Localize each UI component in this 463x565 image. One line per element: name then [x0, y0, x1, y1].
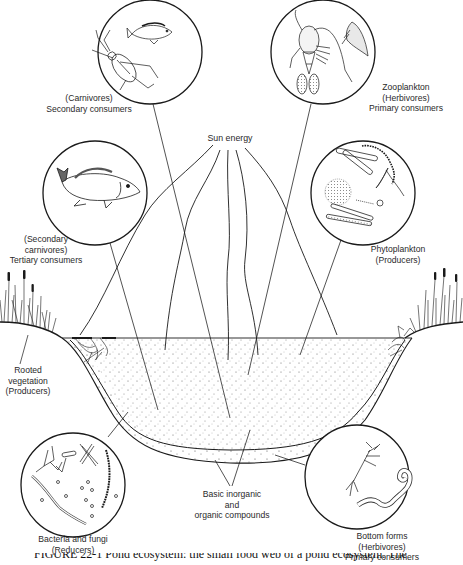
bottom-forms-label-line-1: Bottom forms — [332, 531, 432, 542]
phytoplankton-label-line-1: Phytoplankton — [358, 244, 438, 255]
left-reeds — [0, 278, 56, 333]
rooted-vegetation-label-line-1: Rooted — [0, 365, 56, 376]
pond-ecosystem-diagram: (Carnivores) Secondary consumers Zooplan… — [0, 0, 463, 565]
sun-energy-label-line-1: Sun energy — [190, 133, 270, 144]
secondary-carnivores-label-line-3: Tertiary consumers — [0, 255, 92, 266]
zooplankton-pointer — [248, 104, 311, 375]
sun-energy-label: Sun energy — [190, 133, 270, 144]
basic-compounds-label-line-3: organic compounds — [182, 510, 282, 521]
basic-compounds-label-line-2: and — [182, 500, 282, 511]
figure-caption-cropped: FIGURE 22-1 Pond ecosystem: the small fo… — [0, 553, 463, 565]
secondary-carnivores-label: (Secondary carnivores) Tertiary consumer… — [0, 234, 92, 266]
rooted-vegetation-label-line-3: (Producers) — [0, 386, 56, 397]
phytoplankton-circle — [311, 141, 415, 245]
right-reeds — [410, 276, 462, 332]
zooplankton-label-line-3: Primary consumers — [358, 103, 454, 114]
bacteria-fungi-label: Bacteria and fungi (Reducers) — [23, 534, 123, 555]
carnivores-label-line-2: Secondary consumers — [24, 104, 154, 115]
zooplankton-label-line-2: (Herbivores) — [358, 93, 454, 104]
right-bank-ground — [405, 322, 463, 338]
zooplankton-label: Zooplankton (Herbivores) Primary consume… — [358, 82, 454, 114]
carnivores-circle — [92, 0, 202, 104]
phytoplankton-label: Phytoplankton (Producers) — [358, 244, 438, 265]
basic-compounds-label-line-1: Basic inorganic — [182, 489, 282, 500]
bacteria-fungi-circle — [21, 433, 125, 537]
secondary-carnivores-circle — [43, 141, 147, 245]
secondary-carnivores-label-line-1: (Secondary — [0, 234, 92, 245]
rooted-vegetation-label-line-2: vegetation — [0, 376, 56, 387]
carnivores-label-line-1: (Carnivores) — [24, 93, 154, 104]
secondary-carnivores-label-line-2: carnivores) — [0, 245, 92, 256]
bacteria-fungi-label-line-1: Bacteria and fungi — [23, 534, 123, 545]
rooted-vegetation-label: Rooted vegetation (Producers) — [0, 365, 56, 397]
rooted-vegetation-pointer — [20, 335, 28, 364]
compounds-pointer-left — [215, 460, 230, 486]
bottom-forms-circle — [305, 425, 410, 529]
right-cattails — [434, 268, 457, 282]
figure-caption-text: FIGURE 22-1 Pond ecosystem: the small fo… — [0, 553, 407, 561]
bottom-forms-label-line-2: (Herbivores) — [332, 542, 432, 553]
left-cattails — [8, 270, 34, 292]
phytoplankton-label-line-2: (Producers) — [358, 255, 438, 266]
carnivores-label: (Carnivores) Secondary consumers — [24, 93, 154, 114]
basic-compounds-label: Basic inorganic and organic compounds — [182, 489, 282, 521]
zooplankton-label-line-1: Zooplankton — [358, 82, 454, 93]
